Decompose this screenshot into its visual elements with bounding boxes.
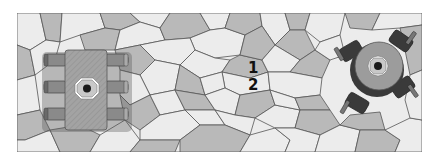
round-gripper-hub — [368, 56, 388, 76]
tile-label-2: 2 — [248, 76, 258, 94]
rectangular-gripper — [42, 50, 132, 132]
tile-label-1: 1 — [248, 59, 258, 77]
right-fingers — [104, 54, 128, 120]
tiled-floor-diagram: 1 2 — [0, 0, 430, 161]
gripper-hub — [75, 78, 99, 99]
left-fingers — [44, 54, 68, 120]
tile-labels: 1 2 — [248, 59, 258, 94]
